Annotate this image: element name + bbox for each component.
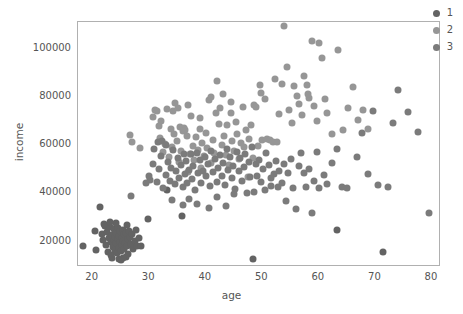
data-point bbox=[193, 149, 200, 156]
legend-item: 2 bbox=[433, 25, 453, 35]
data-point bbox=[224, 122, 231, 129]
data-point bbox=[201, 153, 208, 160]
data-point bbox=[156, 123, 163, 130]
data-point bbox=[276, 111, 283, 118]
data-point bbox=[208, 94, 215, 101]
data-point bbox=[217, 105, 224, 112]
data-point bbox=[169, 147, 176, 154]
data-point bbox=[279, 80, 286, 87]
data-point bbox=[144, 215, 151, 222]
data-point bbox=[194, 201, 201, 208]
legend-item: 3 bbox=[433, 42, 453, 52]
x-tick-label: 20 bbox=[85, 271, 98, 282]
data-point bbox=[405, 108, 412, 115]
data-point bbox=[183, 133, 190, 140]
data-point bbox=[214, 77, 221, 84]
data-point bbox=[369, 107, 376, 114]
data-point bbox=[80, 243, 87, 250]
data-point bbox=[329, 131, 336, 138]
data-point bbox=[304, 91, 311, 98]
data-point bbox=[310, 178, 317, 185]
data-point bbox=[123, 222, 130, 229]
y-tick-label: 40000 bbox=[24, 186, 71, 197]
data-point bbox=[209, 136, 216, 143]
data-point bbox=[136, 234, 143, 241]
data-point bbox=[202, 129, 209, 136]
data-point bbox=[127, 131, 134, 138]
y-tick-label: 20000 bbox=[24, 234, 71, 245]
data-point bbox=[281, 23, 288, 30]
data-point bbox=[183, 158, 190, 165]
data-point bbox=[184, 101, 191, 108]
data-point bbox=[220, 159, 227, 166]
x-tick-label: 80 bbox=[425, 271, 438, 282]
x-tick-label: 60 bbox=[311, 271, 324, 282]
data-point bbox=[290, 83, 297, 90]
data-point bbox=[174, 104, 181, 111]
data-point bbox=[257, 179, 264, 186]
data-point bbox=[320, 172, 327, 179]
data-point bbox=[295, 163, 302, 170]
data-point bbox=[395, 86, 402, 93]
data-point bbox=[188, 176, 195, 183]
data-point bbox=[315, 185, 322, 192]
data-point bbox=[283, 63, 290, 70]
data-point bbox=[143, 179, 150, 186]
data-point bbox=[205, 204, 212, 211]
data-point bbox=[389, 120, 396, 127]
data-point bbox=[113, 219, 120, 226]
data-point bbox=[293, 92, 300, 99]
data-point bbox=[185, 195, 192, 202]
data-point bbox=[273, 157, 280, 164]
data-point bbox=[229, 138, 236, 145]
data-point bbox=[198, 180, 205, 187]
data-point bbox=[316, 39, 323, 46]
data-point bbox=[344, 184, 351, 191]
data-point bbox=[265, 162, 272, 169]
data-point bbox=[222, 181, 229, 188]
data-point bbox=[324, 110, 331, 117]
data-point bbox=[263, 150, 270, 157]
data-point bbox=[333, 146, 340, 153]
data-point bbox=[223, 146, 230, 153]
data-point bbox=[328, 160, 335, 167]
data-point bbox=[179, 213, 186, 220]
data-point bbox=[215, 120, 222, 127]
data-point bbox=[274, 138, 281, 145]
data-point bbox=[218, 172, 225, 179]
data-point bbox=[296, 100, 303, 107]
data-point bbox=[255, 157, 262, 164]
data-point bbox=[293, 205, 300, 212]
data-point bbox=[379, 249, 386, 256]
data-point bbox=[280, 161, 287, 168]
data-point bbox=[321, 96, 328, 103]
data-point bbox=[303, 184, 310, 191]
data-point bbox=[304, 82, 311, 89]
data-point bbox=[415, 129, 422, 136]
data-point bbox=[256, 81, 263, 88]
data-point bbox=[232, 118, 239, 125]
data-point bbox=[262, 187, 269, 194]
data-point bbox=[250, 188, 257, 195]
data-point bbox=[248, 121, 255, 128]
y-tick-label: 100000 bbox=[24, 41, 71, 52]
data-point bbox=[288, 119, 295, 126]
data-point bbox=[311, 103, 318, 110]
data-point bbox=[319, 55, 326, 62]
data-point bbox=[208, 148, 215, 155]
data-point bbox=[214, 194, 221, 201]
data-point bbox=[93, 246, 100, 253]
data-point bbox=[171, 180, 178, 187]
data-point bbox=[168, 196, 175, 203]
data-point bbox=[359, 130, 366, 137]
data-point bbox=[288, 156, 295, 163]
data-point bbox=[197, 114, 204, 121]
legend-marker-icon bbox=[433, 44, 440, 51]
data-point bbox=[227, 154, 234, 161]
data-point bbox=[127, 192, 134, 199]
data-point bbox=[290, 184, 297, 191]
data-point bbox=[271, 75, 278, 82]
y-axis-label: income bbox=[13, 107, 25, 177]
data-point bbox=[180, 202, 187, 209]
x-tick-label: 30 bbox=[142, 271, 155, 282]
